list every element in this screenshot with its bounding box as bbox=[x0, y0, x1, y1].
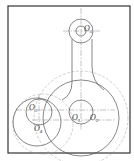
label-o4: O4 bbox=[34, 124, 43, 134]
solid-geometry bbox=[13, 19, 119, 156]
drawing-frame bbox=[8, 6, 130, 153]
label-o1: O1 bbox=[72, 113, 80, 123]
construction-circles bbox=[13, 71, 128, 161]
left-large-circle bbox=[13, 98, 61, 146]
crank-drawing: O5 O3 O1 O2 O4 bbox=[0, 0, 134, 161]
diagram-canvas: O5 O3 O1 O2 O4 bbox=[0, 0, 134, 161]
label-o2: O2 bbox=[90, 113, 99, 123]
label-o3: O3 bbox=[29, 103, 38, 113]
arm-left-edge bbox=[62, 39, 72, 100]
